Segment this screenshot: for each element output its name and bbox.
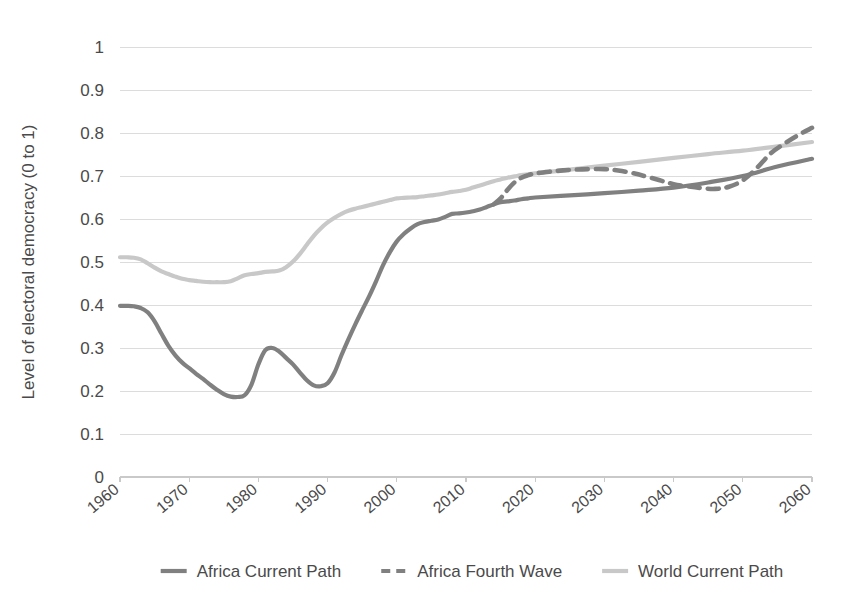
axis-lines — [120, 477, 812, 482]
y-axis-label: Level of electoral democracy (0 to 1) — [19, 125, 38, 400]
y-tick-label-4: 0.6 — [80, 210, 104, 229]
x-tick-label-5: 2010 — [430, 480, 468, 516]
x-tick-label-9: 2050 — [707, 480, 745, 516]
x-tick-label-10: 2060 — [776, 480, 814, 516]
y-tick-label-0: 1 — [95, 38, 104, 57]
chart-container: 10.90.80.70.60.50.40.30.20.10 1960197019… — [0, 0, 852, 611]
x-tick-label-7: 2030 — [568, 480, 606, 516]
gridlines — [120, 47, 812, 477]
series-africa-current-path — [120, 159, 812, 397]
x-tick-label-6: 2020 — [499, 480, 537, 516]
legend-label-1: Africa Current Path — [197, 562, 342, 581]
chart-legend: Africa Current PathAfrica Fourth WaveWor… — [161, 562, 784, 581]
y-tick-label-5: 0.5 — [80, 253, 104, 272]
x-tick-label-2: 1980 — [222, 480, 260, 516]
y-tick-label-8: 0.2 — [80, 382, 104, 401]
y-tick-label-1: 0.9 — [80, 81, 104, 100]
line-chart: 10.90.80.70.60.50.40.30.20.10 1960197019… — [0, 0, 852, 611]
legend-item-2[interactable]: Africa Fourth Wave — [381, 562, 562, 581]
x-tick-label-3: 1990 — [291, 480, 329, 516]
y-tick-label-7: 0.3 — [80, 339, 104, 358]
legend-item-3[interactable]: World Current Path — [602, 562, 783, 581]
legend-item-1[interactable]: Africa Current Path — [161, 562, 342, 581]
y-axis-tick-labels: 10.90.80.70.60.50.40.30.20.10 — [80, 38, 104, 487]
y-tick-label-6: 0.4 — [80, 296, 104, 315]
x-tick-label-1: 1970 — [153, 480, 191, 516]
y-tick-label-3: 0.7 — [80, 167, 104, 186]
series-africa-fourth-wave — [494, 128, 812, 205]
y-tick-label-10: 0 — [95, 468, 104, 487]
x-axis-tick-labels: 1960197019801990200020102020203020402050… — [84, 480, 814, 516]
legend-label-2: Africa Fourth Wave — [417, 562, 562, 581]
y-tick-label-2: 0.8 — [80, 124, 104, 143]
y-tick-label-9: 0.1 — [80, 425, 104, 444]
x-tick-label-8: 2040 — [637, 480, 675, 516]
legend-label-3: World Current Path — [638, 562, 783, 581]
y-axis-title: Level of electoral democracy (0 to 1) — [19, 125, 38, 400]
x-tick-label-4: 2000 — [361, 480, 399, 516]
